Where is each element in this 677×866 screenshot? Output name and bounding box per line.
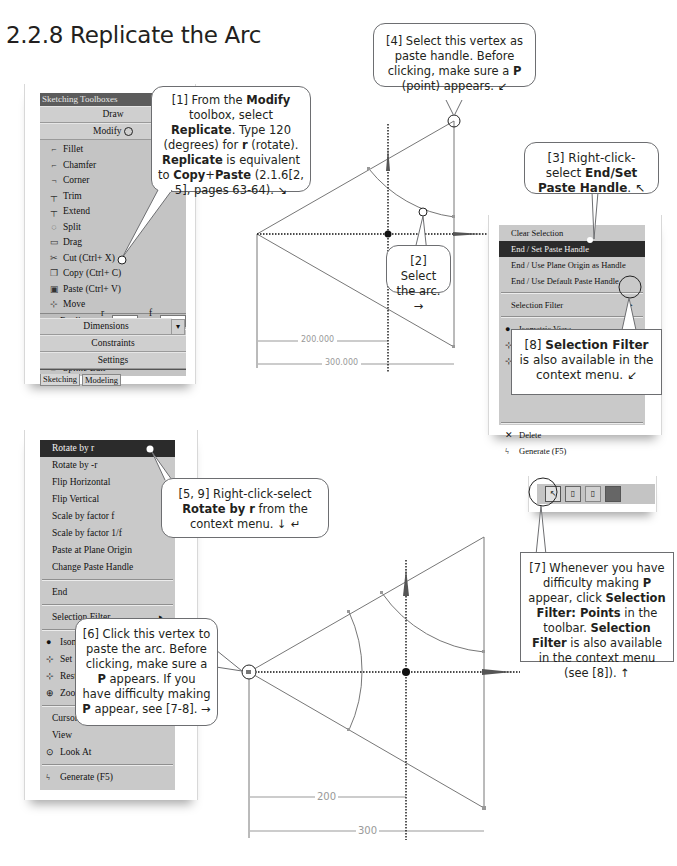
callout-4: [4] Select this vertex as paste handle. … bbox=[373, 23, 536, 87]
callout-8: [8] Selection Filter is also available i… bbox=[511, 329, 662, 395]
callout-1-pointer bbox=[0, 0, 677, 866]
callout-6: [6] Click this vertex to paste the arc. … bbox=[75, 618, 218, 726]
callout-5: [5, 9] Right-click-select Rotate by r fr… bbox=[161, 478, 329, 538]
callout-2: [2] Select the arc. → bbox=[386, 245, 451, 293]
callout-7: [7] Whenever you have difficulty making … bbox=[520, 552, 674, 662]
callout-3: [3] Right-click-select End/Set Paste Han… bbox=[524, 142, 659, 194]
